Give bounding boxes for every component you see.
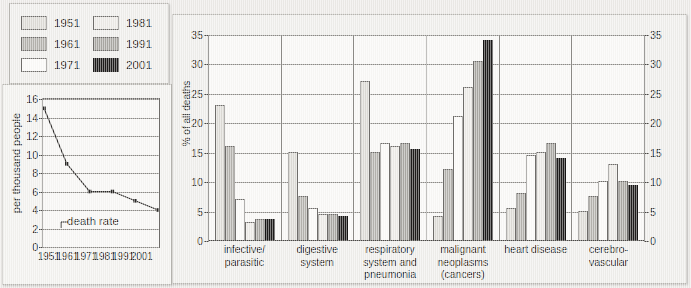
legend-label-1951: 1951 [54,17,80,29]
bar-1981-4 [536,152,546,240]
line-y-tick-label-10: 10 [26,149,38,161]
line-chart-y-axis-label: per thousand people [10,103,22,223]
bar-1961-5 [588,196,598,240]
bar-1951-3 [433,216,443,240]
bar-category-label-line: digestive [282,243,353,256]
bar-1951-1 [288,152,298,240]
figure-root: 195119811961199119712001 per thousand pe… [0,0,691,288]
bar-category-label-4: heart disease [499,243,572,281]
bar-group-3 [427,35,500,240]
line-data-point-1971 [88,190,92,194]
bar-1981-2 [390,146,400,240]
bar-group-0 [209,35,282,240]
line-y-tick-label-2: 2 [32,223,38,235]
causes-of-death-bar-chart: % of all deaths 005510101515202025253030… [172,14,687,284]
line-data-point-1951 [43,107,46,111]
bar-y-tick-label-right-5: 5 [650,206,656,218]
bar-1971-2 [380,143,390,240]
bar-tickmark-right-10 [644,182,649,183]
legend-item-1971: 1971 [21,58,93,72]
bar-1971-4 [526,155,536,240]
bar-y-tick-label-left-25: 25 [191,88,203,100]
line-chart-x-axis-ticks: 195119611971198119912001 [42,251,160,262]
legend-item-2001: 2001 [93,58,165,72]
bar-category-label-3: malignantneoplasms(cancers) [426,243,499,281]
legend-item-1981: 1981 [93,16,165,30]
bar-y-tick-label-left-35: 35 [191,29,203,41]
bar-1991-3 [473,61,483,241]
bar-category-label-2: respiratorysystem andpneumonia [354,243,427,281]
bar-1961-4 [516,193,526,240]
line-y-tick-label-12: 12 [26,130,38,142]
bar-chart-plot-area: 0055101015152020252530303535 [208,35,645,241]
bar-group-5 [572,35,644,240]
bar-tickmark-right-20 [644,123,649,124]
legend-item-1961: 1961 [21,37,93,51]
bar-y-tick-label-right-35: 35 [650,29,662,41]
legend-swatch-1981 [93,16,119,30]
legend-item-1991: 1991 [93,37,165,51]
line-data-point-1961 [65,162,69,166]
bar-tickmark-left-0 [204,241,209,242]
bar-1971-5 [598,181,608,240]
death-rate-line-chart: per thousand people 0246810121416 195119… [2,84,172,285]
bar-1951-0 [215,105,225,240]
bar-1961-0 [225,146,235,240]
line-y-tick-label-8: 8 [32,167,38,179]
line-y-tick-label-4: 4 [32,204,38,216]
bar-category-label-line: respiratory [355,243,426,256]
bar-category-label-line: (cancers) [427,268,498,281]
bar-1971-3 [453,116,463,240]
bar-tickmark-right-15 [644,153,649,154]
bar-category-label-line: pneumonia [355,268,426,281]
bar-category-label-line: heart disease [500,243,571,256]
bar-y-tick-label-right-0: 0 [650,235,656,247]
bar-1991-4 [546,143,556,240]
bar-y-tick-label-left-30: 30 [191,58,203,70]
bar-1991-5 [618,181,628,240]
bar-1991-0 [255,219,265,240]
bar-1951-4 [506,208,516,240]
bar-1981-1 [318,214,328,240]
legend-swatch-1951 [21,16,47,30]
bar-y-tick-label-right-30: 30 [650,58,662,70]
bar-1971-0 [235,199,245,240]
bar-2001-2 [410,149,420,240]
line-data-point-1991 [133,199,137,203]
line-x-tick-label-2001: 2001 [130,251,154,262]
death-rate-leader-line [59,219,71,229]
bar-2001-4 [556,158,566,240]
bar-2001-5 [628,185,638,240]
legend-swatch-2001 [93,58,119,72]
bar-y-tick-label-right-15: 15 [650,147,662,159]
line-data-point-2001 [156,208,159,212]
bar-1961-3 [443,169,453,240]
bar-1981-3 [463,87,473,240]
bar-1951-5 [578,211,588,240]
line-y-tick-label-6: 6 [32,186,38,198]
bar-group-4 [500,35,573,240]
bar-1981-5 [608,164,618,241]
line-data-point-1981 [111,190,115,194]
bar-category-label-5: cerebro-vascular [572,243,645,281]
legend-label-2001: 2001 [126,59,152,71]
bar-y-tick-label-left-20: 20 [191,117,203,129]
bar-2001-0 [265,219,275,240]
bar-1961-2 [370,152,380,240]
bar-1951-2 [360,81,370,240]
bar-tickmark-right-30 [644,64,649,65]
bar-chart-y-axis-label: % of all deaths [181,54,192,174]
legend-label-1981: 1981 [126,17,152,29]
bar-2001-3 [483,40,493,240]
bar-y-tick-label-left-10: 10 [191,176,203,188]
bar-1971-1 [308,208,318,240]
line-y-tick-label-16: 16 [26,93,38,105]
bar-y-tick-label-left-0: 0 [197,235,203,247]
legend-swatch-1961 [21,37,47,51]
legend-label-1961: 1961 [54,38,80,50]
bar-category-label-1: digestivesystem [281,243,354,281]
bar-category-label-line: system [282,256,353,269]
bar-1961-1 [298,196,308,240]
year-legend: 195119811961199119712001 [9,3,169,84]
bar-1981-0 [245,222,255,240]
